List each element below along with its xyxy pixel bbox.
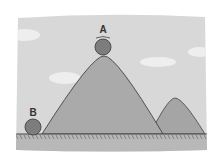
scene-illustration: A B (0, 0, 221, 163)
ball-a (95, 39, 111, 55)
ball-b (25, 119, 41, 135)
ball-a-label: A (99, 24, 106, 35)
ball-b-label: B (29, 107, 36, 118)
